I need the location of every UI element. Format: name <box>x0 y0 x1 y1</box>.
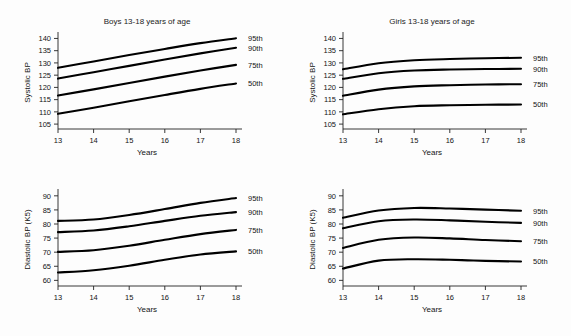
x-tick-label: 17 <box>196 293 204 302</box>
y-tick-label: 130 <box>323 59 336 68</box>
chart-panel-girls-diastolic: 60657075808590131415161718YearsDiastolic… <box>285 168 570 336</box>
x-tick-label: 15 <box>410 136 418 145</box>
y-tick-label: 115 <box>324 95 336 104</box>
y-axis-title: Systolic BP <box>23 62 32 102</box>
chart-axes <box>58 32 242 129</box>
y-tick-label: 90 <box>43 192 51 201</box>
y-axis-title: Diastolic BP (K5) <box>23 209 32 270</box>
x-tick-label: 18 <box>517 136 525 145</box>
chart-svg-girls-diastolic: 60657075808590131415161718YearsDiastolic… <box>285 168 570 336</box>
y-tick-label: 65 <box>43 262 51 271</box>
percentile-curve-50th <box>58 251 236 272</box>
x-tick-label: 17 <box>481 136 489 145</box>
x-tick-label: 16 <box>161 293 169 302</box>
y-tick-label: 105 <box>323 120 336 129</box>
y-tick-label: 110 <box>39 108 51 117</box>
percentile-curve-95th <box>58 198 236 221</box>
x-tick-label: 15 <box>410 293 418 302</box>
chart-axes <box>343 32 527 129</box>
y-tick-label: 85 <box>43 206 51 215</box>
percentile-curve-75th <box>343 84 521 96</box>
x-tick-label: 18 <box>232 293 240 302</box>
chart-panel-boys-systolic: Boys 13-18 years of age10511011512012513… <box>0 0 285 168</box>
y-tick-label: 125 <box>323 71 336 80</box>
x-tick-label: 17 <box>481 293 489 302</box>
chart-svg-boys-systolic: Boys 13-18 years of age10511011512012513… <box>0 0 285 168</box>
legend-label-75th: 75th <box>248 61 263 70</box>
legend-label-90th: 90th <box>248 208 263 217</box>
percentile-curve-50th <box>343 105 521 115</box>
percentile-curve-90th <box>58 212 236 232</box>
x-axis-title: Years <box>137 148 157 157</box>
y-tick-label: 60 <box>43 276 51 285</box>
y-tick-label: 135 <box>323 46 336 55</box>
legend-label-50th: 50th <box>533 257 548 266</box>
percentile-curve-90th <box>343 69 521 79</box>
percentile-curve-95th <box>343 58 521 70</box>
y-tick-label: 130 <box>38 59 51 68</box>
legend-label-90th: 90th <box>248 44 263 53</box>
x-tick-label: 13 <box>54 136 62 145</box>
chart-title: Boys 13-18 years of age <box>104 17 191 26</box>
x-tick-label: 15 <box>125 136 133 145</box>
legend-label-95th: 95th <box>533 207 548 216</box>
legend-label-50th: 50th <box>248 247 263 256</box>
x-axis-title: Years <box>137 305 157 314</box>
legend-label-75th: 75th <box>248 226 263 235</box>
y-tick-label: 140 <box>38 34 51 43</box>
y-tick-label: 65 <box>328 262 336 271</box>
x-tick-label: 14 <box>374 293 382 302</box>
y-tick-label: 70 <box>328 248 336 257</box>
x-tick-label: 17 <box>196 136 204 145</box>
percentile-curve-90th <box>343 219 521 228</box>
x-tick-label: 15 <box>125 293 133 302</box>
legend-label-90th: 90th <box>533 219 548 228</box>
y-tick-label: 135 <box>38 46 51 55</box>
percentile-curve-75th <box>343 237 521 247</box>
y-tick-label: 80 <box>328 220 336 229</box>
y-axis-title: Systolic BP <box>308 62 317 102</box>
chart-title: Girls 13-18 years of age <box>389 17 475 26</box>
x-tick-label: 13 <box>339 293 347 302</box>
x-tick-label: 16 <box>446 136 454 145</box>
y-tick-label: 105 <box>38 120 51 129</box>
y-tick-label: 115 <box>39 95 51 104</box>
x-tick-label: 13 <box>54 293 62 302</box>
x-axis-title: Years <box>422 148 442 157</box>
legend-label-75th: 75th <box>533 80 548 89</box>
legend-label-95th: 95th <box>248 34 263 43</box>
blood-pressure-figure: Boys 13-18 years of age10511011512012513… <box>0 0 571 336</box>
y-tick-label: 125 <box>38 71 51 80</box>
y-tick-label: 75 <box>328 234 336 243</box>
percentile-curve-75th <box>58 65 236 96</box>
percentile-curve-95th <box>343 208 521 218</box>
x-tick-label: 16 <box>446 293 454 302</box>
x-tick-label: 14 <box>89 293 97 302</box>
y-tick-label: 120 <box>323 83 336 92</box>
y-tick-label: 70 <box>43 248 51 257</box>
legend-label-75th: 75th <box>533 237 548 246</box>
legend-label-90th: 90th <box>533 65 548 74</box>
y-tick-label: 85 <box>328 206 336 215</box>
x-axis-title: Years <box>422 305 442 314</box>
x-tick-label: 18 <box>232 136 240 145</box>
x-tick-label: 18 <box>517 293 525 302</box>
y-tick-label: 140 <box>323 34 336 43</box>
y-tick-label: 120 <box>38 83 51 92</box>
y-tick-label: 80 <box>43 220 51 229</box>
percentile-curve-50th <box>58 83 236 113</box>
x-tick-label: 13 <box>339 136 347 145</box>
percentile-curve-50th <box>343 259 521 268</box>
x-tick-label: 16 <box>161 136 169 145</box>
x-tick-label: 14 <box>89 136 97 145</box>
chart-svg-boys-diastolic: 60657075808590131415161718YearsDiastolic… <box>0 168 285 336</box>
y-tick-label: 75 <box>43 234 51 243</box>
y-tick-label: 110 <box>324 108 336 117</box>
legend-label-50th: 50th <box>248 79 263 88</box>
y-tick-label: 60 <box>328 276 336 285</box>
y-tick-label: 90 <box>328 192 336 201</box>
chart-panel-girls-systolic: Girls 13-18 years of age1051101151201251… <box>285 0 570 168</box>
legend-label-50th: 50th <box>533 100 548 109</box>
legend-label-95th: 95th <box>248 194 263 203</box>
legend-label-95th: 95th <box>533 54 548 63</box>
